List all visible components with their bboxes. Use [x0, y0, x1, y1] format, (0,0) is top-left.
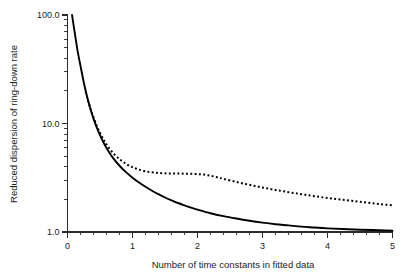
y-tick-label: 100.0 [37, 10, 60, 20]
y-tick-label: 1.0 [47, 227, 60, 237]
x-axis-title: Number of time constants in fitted data [152, 259, 315, 270]
x-tick-label: 4 [325, 241, 330, 251]
chart-figure: 1.010.0100.0 012345 Number of time const… [0, 0, 409, 276]
x-tick-label: 1 [130, 241, 135, 251]
y-tick-label: 10.0 [42, 119, 60, 129]
x-tick-label: 5 [390, 241, 395, 251]
chart-background [0, 0, 409, 276]
x-tick-label: 0 [65, 241, 70, 251]
y-axis-title: Reduced dispersion of ring-down rate [8, 45, 19, 203]
x-tick-label: 3 [260, 241, 265, 251]
x-tick-label: 2 [195, 241, 200, 251]
chart-canvas: 1.010.0100.0 012345 Number of time const… [0, 0, 409, 276]
